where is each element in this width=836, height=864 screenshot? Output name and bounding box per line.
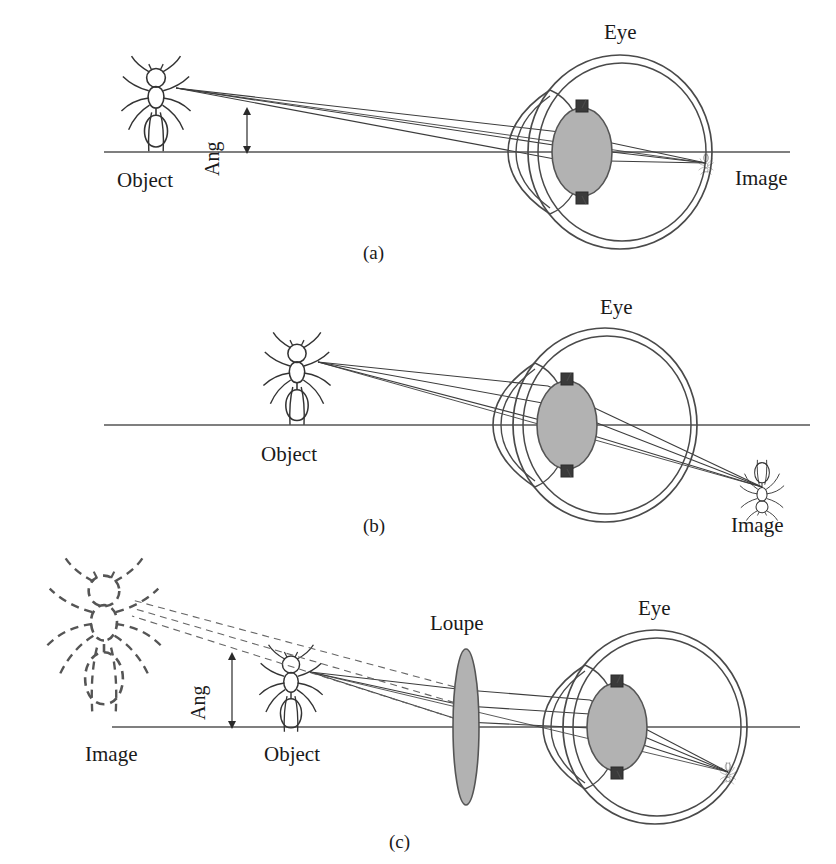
object-ant-a (121, 56, 190, 151)
eye-label-a: Eye (604, 22, 637, 43)
angle-label-a: Ang (202, 142, 222, 176)
eye-label-c: Eye (638, 598, 671, 619)
virtual-image-ant-c (47, 556, 160, 712)
object-label-c: Object (264, 744, 320, 765)
object-ant-b (263, 332, 330, 424)
panel-caption-a: (a) (363, 243, 384, 262)
image-label-c: Image (85, 744, 137, 765)
panel-caption-b: (b) (363, 516, 385, 535)
image-label-b: Image (731, 515, 783, 536)
angle-indicator-a (243, 107, 251, 154)
angle-label-c: Ang (188, 686, 208, 720)
panel-b (104, 328, 810, 522)
loupe-label: Loupe (430, 613, 484, 634)
loupe-lens (453, 649, 479, 805)
ray-bundle-c (310, 672, 728, 772)
object-ant-c (259, 645, 322, 732)
object-label-a: Object (117, 170, 173, 191)
panel-caption-c: (c) (389, 832, 410, 851)
image-ant-b (740, 460, 784, 521)
angle-indicator-c (228, 652, 236, 729)
eye-label-b: Eye (600, 297, 633, 318)
object-label-b: Object (261, 444, 317, 465)
optics-figure (0, 0, 836, 864)
panel-c (47, 556, 800, 824)
image-label-a: Image (735, 168, 787, 189)
